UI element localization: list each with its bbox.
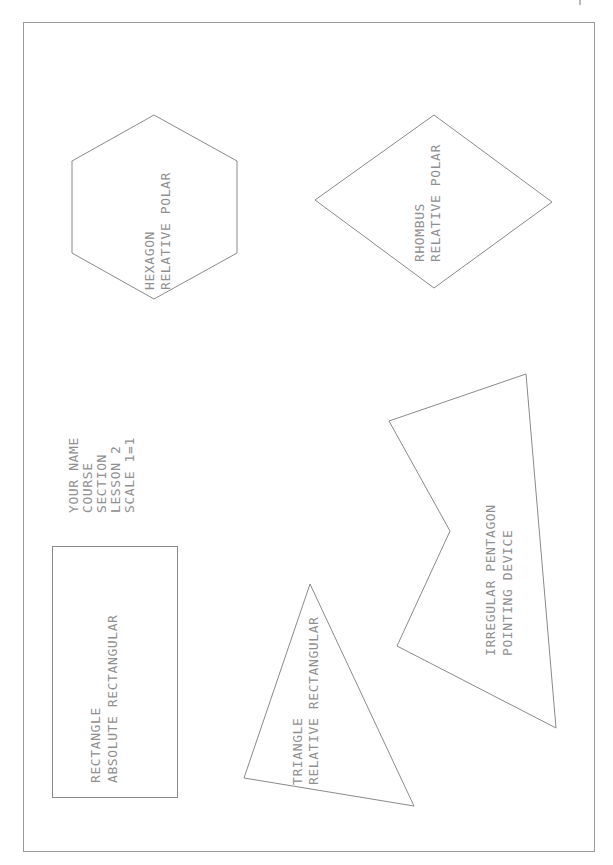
rectangle-label-line-2: ABSOLUTE RECTANGULAR [105,614,120,783]
title-block-your-name: YOUR NAME [66,437,81,513]
title-block-lesson: LESSON 2 [108,446,123,513]
pentagon-group: IRREGULAR PENTAGON POINTING DEVICE [389,374,556,728]
rhombus-label-line-1: RHOMBUS [412,203,427,262]
triangle-label-line-2: RELATIVE RECTANGULAR [306,616,321,785]
triangle-group: TRIANGLE RELATIVE RECTANGULAR [244,584,414,806]
rectangle-label-line-1: RECTANGLE [88,707,103,783]
pentagon-label-line-1: IRREGULAR PENTAGON [483,504,498,656]
hexagon-group: HEXAGON RELATIVE POLAR [72,115,237,299]
hexagon-label-line-2: RELATIVE POLAR [158,172,173,290]
hexagon-label-line-1: HEXAGON [142,231,157,290]
rhombus-group: RHOMBUS RELATIVE POLAR [315,115,552,288]
title-block-course: COURSE [80,462,95,513]
cad-drawing-sheet: HEXAGON RELATIVE POLAR RHOMBUS RELATIVE … [0,0,613,865]
triangle-label-line-1: TRIANGLE [290,718,305,785]
triangle-shape [244,584,414,806]
rectangle-group: RECTANGLE ABSOLUTE RECTANGULAR [53,547,178,798]
title-block: YOUR NAME COURSE SECTION LESSON 2 SCALE … [66,437,137,513]
title-block-section: SECTION [94,454,109,513]
pentagon-label-line-2: POINTING DEVICE [500,530,515,656]
rhombus-label-line-2: RELATIVE POLAR [428,144,443,262]
irregular-pentagon-shape [389,374,556,728]
title-block-scale: SCALE 1=1 [122,437,137,513]
